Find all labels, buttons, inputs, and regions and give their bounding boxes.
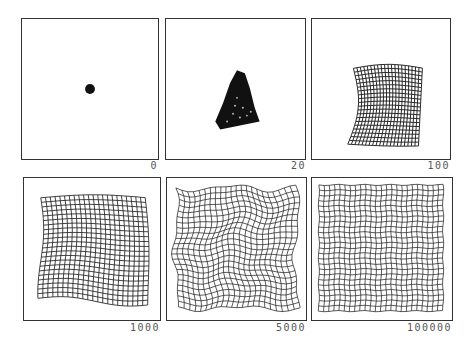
partial-grid-graphic (312, 19, 450, 159)
wavy-grid-graphic (167, 178, 306, 320)
regular-grid-graphic (312, 178, 452, 320)
panel-iteration-1000 (23, 177, 161, 321)
iteration-label: 5000 (246, 322, 306, 333)
panel-iteration-100000 (311, 177, 453, 321)
iteration-label: 100000 (372, 322, 452, 333)
iteration-label: 1000 (100, 322, 160, 333)
panel-iteration-0 (21, 18, 159, 160)
panel-iteration-100 (311, 18, 451, 160)
mostly-unfolded-grid-graphic (24, 178, 160, 320)
iteration-label: 0 (110, 160, 158, 171)
iteration-label: 20 (250, 160, 306, 171)
tangled-cluster-graphic (166, 19, 305, 159)
collapsed-point-graphic (22, 19, 158, 159)
panel-iteration-20 (165, 18, 306, 160)
iteration-label: 100 (390, 160, 450, 171)
panel-iteration-5000 (166, 177, 307, 321)
